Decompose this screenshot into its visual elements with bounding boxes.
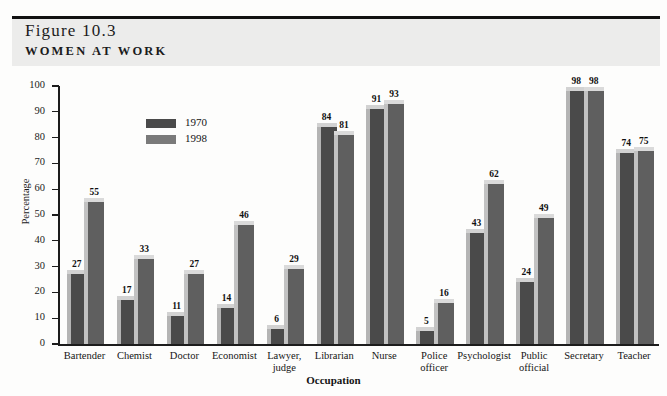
bar-value-label: 16 xyxy=(432,288,456,298)
bar-value-label: 46 xyxy=(232,210,256,220)
y-axis-tick xyxy=(52,85,59,86)
y-axis-tick-label: 20 xyxy=(19,285,45,296)
bar-front-face xyxy=(88,202,104,344)
bar xyxy=(234,221,254,344)
x-axis-category-label: Teacher xyxy=(601,350,667,362)
bar xyxy=(384,100,404,344)
legend-label-1998: 1998 xyxy=(185,132,207,144)
y-axis-tick xyxy=(52,214,59,215)
y-axis-tick xyxy=(52,240,59,241)
y-axis-tick xyxy=(52,292,59,293)
bar xyxy=(434,299,454,344)
bar-front-face xyxy=(238,225,254,344)
bar-value-label: 93 xyxy=(382,89,406,99)
figure-page: Figure 10.3 WOMEN AT WORK Percentage Occ… xyxy=(0,0,667,396)
y-axis-tick xyxy=(52,111,59,112)
y-axis-tick-label: 30 xyxy=(19,260,45,271)
bar-front-face xyxy=(388,104,404,344)
y-axis-tick-label: 90 xyxy=(19,105,45,116)
y-axis-tick xyxy=(52,266,59,267)
bar-front-face xyxy=(588,91,604,344)
y-axis-tick xyxy=(52,189,59,190)
bar-value-label: 49 xyxy=(532,203,556,213)
y-axis-tick-label: 50 xyxy=(19,208,45,219)
bar-value-label: 29 xyxy=(282,254,306,264)
y-axis-tick xyxy=(52,137,59,138)
bar-front-face xyxy=(138,259,154,344)
bar-value-label: 55 xyxy=(82,187,106,197)
bar xyxy=(484,180,504,344)
y-axis-line xyxy=(58,86,60,346)
bar xyxy=(284,265,304,344)
x-axis-title: Occupation xyxy=(0,374,667,386)
legend-swatch-1970 xyxy=(146,119,176,128)
bar xyxy=(584,87,604,344)
bar-front-face xyxy=(538,218,554,344)
y-axis-tick-label: 60 xyxy=(19,182,45,193)
y-axis-tick-label: 100 xyxy=(19,79,45,90)
bar xyxy=(84,198,104,344)
bar-value-label: 81 xyxy=(332,120,356,130)
bar-front-face xyxy=(188,274,204,344)
x-axis-line xyxy=(58,344,659,346)
bar xyxy=(134,255,154,344)
y-axis-tick-label: 70 xyxy=(19,156,45,167)
bar-front-face xyxy=(638,151,654,345)
legend-label-1970: 1970 xyxy=(185,116,207,128)
y-axis-tick-label: 40 xyxy=(19,234,45,245)
legend-swatch-1998 xyxy=(146,135,176,144)
figure-title: WOMEN AT WORK xyxy=(25,44,168,59)
bar-value-label: 33 xyxy=(132,244,156,254)
bar-front-face xyxy=(338,135,354,344)
bar xyxy=(634,147,654,345)
bar-value-label: 62 xyxy=(482,169,506,179)
bar-value-label: 75 xyxy=(632,136,656,146)
y-axis-tick-label: 80 xyxy=(19,131,45,142)
bar-value-label: 27 xyxy=(182,259,206,269)
y-axis-tick xyxy=(52,163,59,164)
y-axis-tick-label: 10 xyxy=(19,311,45,322)
bar xyxy=(184,270,204,344)
bar-front-face xyxy=(438,303,454,344)
bar-value-label: 98 xyxy=(582,76,606,86)
y-axis-tick-labels: 0102030405060708090100 xyxy=(17,0,45,396)
y-axis-tick-label: 0 xyxy=(19,337,45,348)
bar-front-face xyxy=(288,269,304,344)
bar-front-face xyxy=(488,184,504,344)
y-axis-tick xyxy=(52,318,59,319)
bar xyxy=(534,214,554,344)
bar xyxy=(334,131,354,344)
y-axis-tick xyxy=(52,343,59,344)
